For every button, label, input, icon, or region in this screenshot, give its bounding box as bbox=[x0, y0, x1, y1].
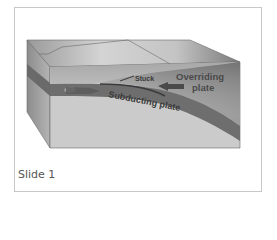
label-overriding-line2: plate bbox=[192, 82, 214, 93]
label-stuck: Stuck bbox=[135, 75, 154, 82]
slide-caption: Slide 1 bbox=[18, 168, 55, 181]
label-overriding-line1: Overriding bbox=[176, 71, 224, 82]
